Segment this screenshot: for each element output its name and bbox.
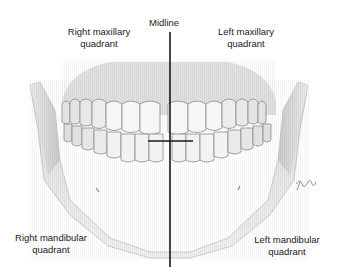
dental-quadrants-diagram: Midline Right maxillary quadrant Left ma… xyxy=(0,0,338,278)
left-mandibular-quadrant-label: Left mandibular quadrant xyxy=(247,234,327,258)
right-maxillary-quadrant-label: Right maxillary quadrant xyxy=(58,26,140,50)
left-maxillary-quadrant-label: Left maxillary quadrant xyxy=(210,26,282,50)
midline-label: Midline xyxy=(149,17,179,29)
right-mandibular-quadrant-label: Right mandibular quadrant xyxy=(8,232,94,256)
